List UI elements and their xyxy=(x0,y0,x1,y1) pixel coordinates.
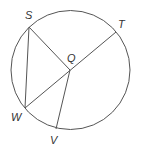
segment-sw xyxy=(25,27,29,108)
segment-sq xyxy=(29,27,70,70)
segment-qv xyxy=(56,70,70,129)
diagram-canvas: S T Q W V xyxy=(0,0,143,152)
label-v: V xyxy=(50,134,59,146)
label-q: Q xyxy=(67,52,76,64)
circle-diagram: S T Q W V xyxy=(0,0,143,152)
label-s: S xyxy=(25,9,33,21)
label-t: T xyxy=(118,18,126,30)
label-w: W xyxy=(11,111,23,123)
segment-wt xyxy=(25,32,116,108)
